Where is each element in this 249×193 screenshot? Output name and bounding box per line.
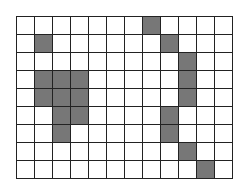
grid-cell xyxy=(125,161,143,179)
grid-cell xyxy=(89,53,107,71)
grid-cell xyxy=(89,71,107,89)
grid-cell xyxy=(197,107,215,125)
grid-cell xyxy=(17,53,35,71)
grid-cell xyxy=(197,35,215,53)
grid-cell xyxy=(35,143,53,161)
grid-cell xyxy=(143,53,161,71)
grid-cell xyxy=(125,107,143,125)
grid-cell xyxy=(17,89,35,107)
grid-cell-filled xyxy=(179,71,197,89)
grid-cell xyxy=(143,143,161,161)
grid-cell-filled xyxy=(179,53,197,71)
grid-cell xyxy=(125,35,143,53)
grid-cell xyxy=(107,143,125,161)
grid-cell xyxy=(107,89,125,107)
grid-cell xyxy=(161,17,179,35)
grid-cell-filled xyxy=(35,89,53,107)
grid-cell xyxy=(53,143,71,161)
grid-cell xyxy=(179,161,197,179)
grid-cell xyxy=(143,161,161,179)
grid-cell xyxy=(215,89,233,107)
grid-cell xyxy=(89,89,107,107)
grid-cell xyxy=(161,143,179,161)
grid-cell xyxy=(17,125,35,143)
grid-cell-filled xyxy=(71,89,89,107)
grid-cell xyxy=(35,17,53,35)
grid-cell xyxy=(53,35,71,53)
grid-cell xyxy=(89,35,107,53)
grid-cell xyxy=(107,71,125,89)
grid-cell-filled xyxy=(161,125,179,143)
grid-cell xyxy=(161,71,179,89)
grid-cell xyxy=(89,161,107,179)
grid-cell xyxy=(89,17,107,35)
grid-cell xyxy=(143,107,161,125)
grid-cell xyxy=(107,35,125,53)
grid-cell-filled xyxy=(53,125,71,143)
grid-cell xyxy=(71,161,89,179)
grid-cell xyxy=(143,125,161,143)
grid-cell xyxy=(179,125,197,143)
grid-cell xyxy=(197,89,215,107)
grid-cell xyxy=(215,35,233,53)
grid-cell-filled xyxy=(71,107,89,125)
grid-cell xyxy=(215,143,233,161)
grid-cell-filled xyxy=(35,35,53,53)
grid-cell xyxy=(161,53,179,71)
grid-cell xyxy=(125,125,143,143)
grid-cell xyxy=(71,53,89,71)
grid-cell xyxy=(89,107,107,125)
grid-cell xyxy=(71,35,89,53)
grid-cell xyxy=(215,161,233,179)
grid-cell xyxy=(107,125,125,143)
grid-cell xyxy=(89,143,107,161)
grid-cell xyxy=(197,53,215,71)
grid-cell xyxy=(17,17,35,35)
grid-cell xyxy=(125,89,143,107)
grid-cell xyxy=(17,161,35,179)
grid-cell xyxy=(71,143,89,161)
grid-cell xyxy=(35,161,53,179)
grid-cell xyxy=(197,17,215,35)
grid-cell-filled xyxy=(179,89,197,107)
grid-cell xyxy=(197,143,215,161)
grid-cell-filled xyxy=(35,71,53,89)
grid-cell xyxy=(125,53,143,71)
grid-cell xyxy=(71,17,89,35)
grid-cell xyxy=(179,17,197,35)
grid-cell xyxy=(35,53,53,71)
grid-cell xyxy=(53,53,71,71)
grid-cell xyxy=(53,17,71,35)
grid-cell-filled xyxy=(161,107,179,125)
grid-cell-filled xyxy=(71,71,89,89)
grid-cell xyxy=(215,125,233,143)
grid-cell xyxy=(161,89,179,107)
grid-cell-filled xyxy=(197,161,215,179)
grid-cell xyxy=(17,71,35,89)
grid-cell-filled xyxy=(161,35,179,53)
grid-cell-filled xyxy=(53,107,71,125)
grid-cell xyxy=(125,17,143,35)
pixel-grid xyxy=(16,16,233,179)
grid-cell xyxy=(143,89,161,107)
grid-cell xyxy=(179,35,197,53)
grid-cell xyxy=(197,125,215,143)
grid-cell xyxy=(215,71,233,89)
grid-cell xyxy=(107,107,125,125)
grid-cell xyxy=(143,71,161,89)
grid-cell-filled xyxy=(179,143,197,161)
grid-cell xyxy=(71,125,89,143)
grid-cell xyxy=(107,17,125,35)
grid-cell xyxy=(215,17,233,35)
grid-cell xyxy=(35,125,53,143)
grid-cell xyxy=(179,107,197,125)
grid-cell xyxy=(215,107,233,125)
grid-cell-filled xyxy=(143,17,161,35)
grid-cell xyxy=(215,53,233,71)
grid-cell xyxy=(143,35,161,53)
grid-cell xyxy=(17,107,35,125)
grid-cell-filled xyxy=(53,89,71,107)
grid-cell xyxy=(161,161,179,179)
grid-cell xyxy=(17,143,35,161)
grid-cell xyxy=(125,71,143,89)
